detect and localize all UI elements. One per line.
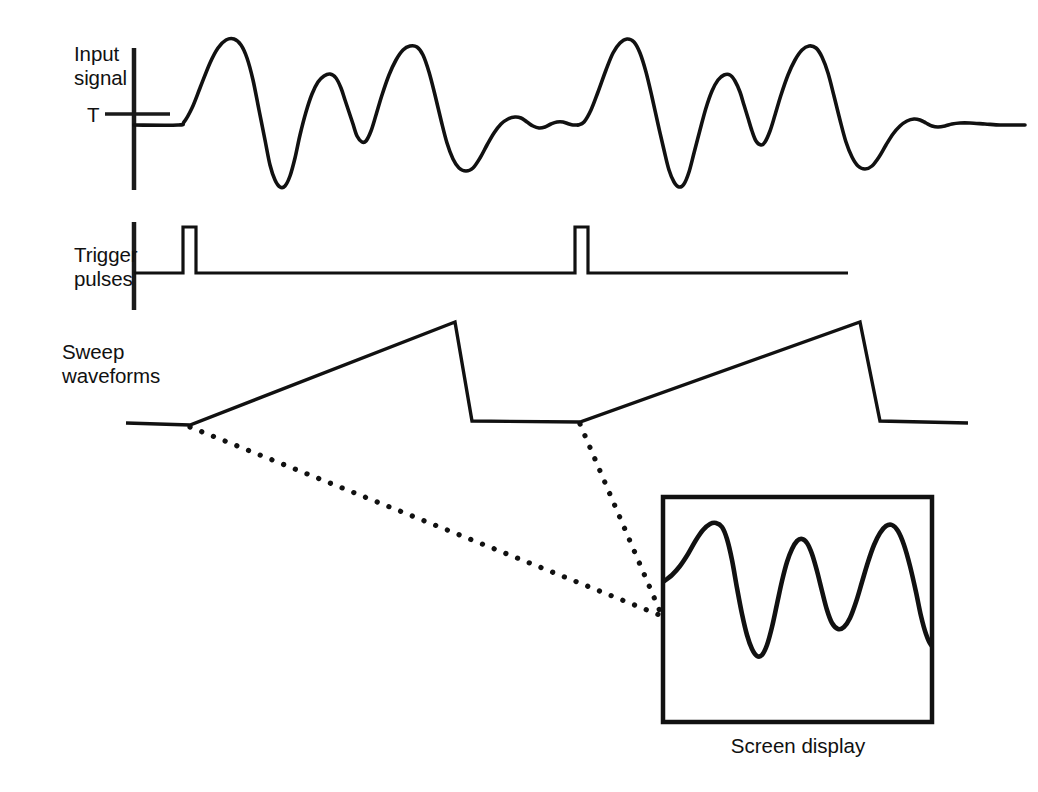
input-signal-waveform-repeat <box>578 39 1025 187</box>
sweep-ramp-waveform <box>126 322 968 425</box>
input-signal-panel <box>105 39 1025 190</box>
screen-display-waveform <box>663 523 1021 657</box>
projection-lines <box>190 424 662 616</box>
sweep-waveforms-label: Sweep waveforms <box>62 340 160 388</box>
trigger-pulses-label: Trigger pulses <box>74 243 137 291</box>
projection-line-right <box>580 424 662 616</box>
trigger-pulse-train <box>134 227 848 273</box>
trigger-pulses-panel <box>134 222 848 310</box>
screen-display-caption: Screen display <box>663 734 933 758</box>
sweep-waveforms-panel <box>126 322 968 425</box>
oscilloscope-triggering-diagram: Input signal T Trigger pulses Sweep wave… <box>0 0 1038 792</box>
input-signal-waveform <box>134 39 578 188</box>
projection-line-left <box>190 427 662 616</box>
diagram-canvas <box>0 0 1038 792</box>
screen-display-panel <box>663 497 1021 722</box>
trigger-threshold-label: T <box>87 103 99 127</box>
input-signal-label: Input signal <box>74 42 127 90</box>
